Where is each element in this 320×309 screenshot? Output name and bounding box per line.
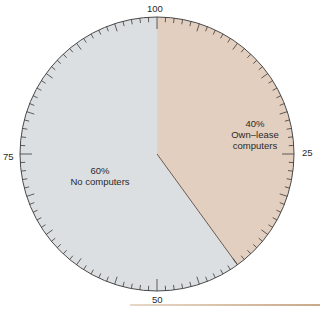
slice-name-own-lease-1: Own–lease xyxy=(215,129,295,140)
pie-chart xyxy=(0,0,320,309)
tick-label-75: 75 xyxy=(3,151,14,162)
slice-label-own-lease: 40% Own–lease computers xyxy=(215,118,295,151)
slice-pct-own-lease: 40% xyxy=(215,118,295,129)
tick-label-100: 100 xyxy=(147,3,163,14)
bottom-rule xyxy=(130,304,320,306)
tick-label-25: 25 xyxy=(302,147,313,158)
slice-name-own-lease-2: computers xyxy=(215,140,295,151)
slice-name-no-computers: No computers xyxy=(60,176,140,187)
slice-pct-no-computers: 60% xyxy=(60,165,140,176)
slice-label-no-computers: 60% No computers xyxy=(60,165,140,187)
